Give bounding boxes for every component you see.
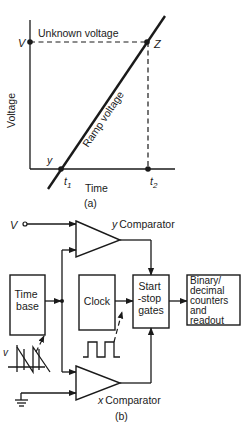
sawtooth-waveform: v [3,336,50,372]
input-v-label: V [10,219,19,231]
point-v [27,39,33,45]
sawtooth-pointer [36,336,44,352]
caption-b: (b) [115,410,128,422]
svg-text:v: v [3,347,9,358]
x-comparator-label: xComparator [97,394,161,406]
label-ramp-voltage: Ramp voltage [80,89,126,150]
caption-a: (a) [84,197,97,209]
clock-label: Clock [84,295,111,307]
point-t2 [145,166,151,172]
ramp-dvm-figure: V Unknown voltage Z y Ramp voltage t1 t2… [0,0,247,424]
x-axis-label: Time [85,182,108,194]
label-z: Z [153,38,162,50]
ground-icon [15,393,76,406]
time-base-label: Time base [15,288,41,312]
y-axis-label: Voltage [5,93,17,128]
tick-t1: t1 [64,175,71,190]
label-unknown-voltage: Unknown voltage [38,27,119,39]
block-diagram: V yComparator Time base v [3,218,240,422]
y-comparator-label: yComparator [111,218,175,230]
label-v: V [18,37,27,49]
tick-t2: t2 [150,175,158,190]
label-y: y [46,154,53,166]
start-stop-gates-label: Start -stop gates [138,280,164,316]
point-z [144,39,150,45]
point-t1 [58,166,64,172]
input-terminal [23,222,27,226]
ramp-voltage-graph: V Unknown voltage Z y Ramp voltage t1 t2… [5,16,175,209]
